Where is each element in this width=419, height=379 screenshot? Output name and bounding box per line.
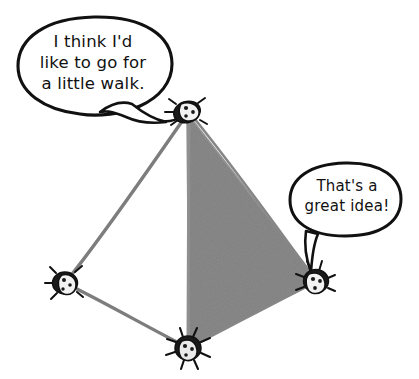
bottom-bug-spot — [190, 347, 194, 351]
right-bug-spot — [311, 277, 315, 281]
right-bug-shell — [306, 273, 325, 294]
left-bug — [45, 266, 83, 299]
illustration-canvas: I think I'd like to go for a little walk… — [0, 0, 419, 379]
left-bug-shell — [58, 275, 76, 295]
shaded-face-fill — [187, 113, 318, 347]
edge-apex-left — [69, 117, 185, 278]
apex-bug-spot — [184, 106, 188, 110]
speech-bubble-right — [290, 163, 401, 272]
tetrahedron-drawing — [0, 0, 419, 379]
shaded-face — [187, 113, 318, 347]
edge-left-bottom — [75, 288, 181, 344]
left-bug-spot — [61, 287, 64, 290]
edge-apex-bottom — [188, 116, 189, 340]
bubble-1-tail — [100, 103, 166, 123]
apex-bug-shell — [179, 103, 199, 121]
left-bug-spot — [62, 278, 66, 282]
right-bug-spot — [313, 286, 317, 290]
speech-bubble-top-left — [18, 17, 181, 123]
apex-bug-spot — [184, 114, 188, 118]
bubble-2-outline — [290, 163, 401, 236]
apex-bug-spot — [191, 110, 195, 114]
left-bug-spot — [68, 283, 72, 287]
right-bug-spot — [318, 279, 322, 283]
bottom-bug-spot — [184, 353, 188, 357]
bottom-bug-spot — [183, 344, 187, 348]
bubble-2-tail — [305, 231, 318, 272]
bottom-bug-shell — [179, 340, 197, 361]
bubble-1-outline — [18, 17, 172, 115]
